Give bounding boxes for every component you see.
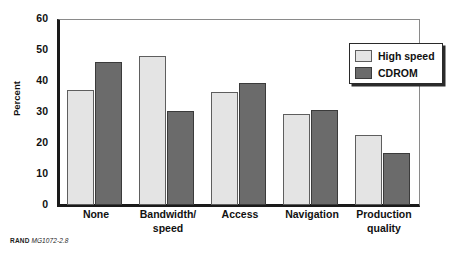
legend-item-cdrom: CDROM (355, 65, 418, 80)
y-axis-tick-label: 40 (36, 74, 48, 87)
bar-high-speed (283, 114, 310, 205)
bar-cdrom (239, 83, 266, 205)
source-note-code: MG1072-2.8 (31, 237, 68, 244)
bar-cdrom (167, 111, 194, 205)
y-axis-tick-label: 20 (36, 136, 48, 149)
x-axis-label-group: NoneBandwidth/speedAccessNavigationProdu… (60, 208, 420, 248)
bar-group (60, 19, 132, 205)
bar-group (132, 19, 204, 205)
bar-group (204, 19, 276, 205)
bar-cdrom (95, 62, 122, 205)
x-axis-label-line: speed (126, 222, 210, 236)
y-axis-tick: 50 (0, 50, 57, 51)
bar-high-speed (355, 135, 382, 205)
legend-item-high-speed: High speed (355, 48, 435, 63)
y-axis-tick-label: 10 (36, 167, 48, 180)
y-axis-tick: 40 (0, 81, 57, 82)
y-axis-title: Percent (11, 56, 22, 116)
bar-cdrom (311, 110, 338, 205)
y-axis-tick: 20 (0, 143, 57, 144)
y-axis-tick: 0 (0, 205, 57, 206)
bar-high-speed (139, 56, 166, 205)
bar-high-speed (211, 92, 238, 205)
y-axis-tick: 10 (0, 174, 57, 175)
source-note: RAND MG1072-2.8 (10, 236, 69, 245)
x-axis-label-line: Production (342, 208, 426, 222)
y-axis-tick-label: 60 (36, 12, 48, 25)
y-axis-tick: 60 (0, 19, 57, 20)
legend-swatch-icon-high-speed (355, 50, 372, 62)
figure-container: Percent 0102030405060 NoneBandwidth/spee… (0, 0, 461, 263)
bar-cdrom (383, 153, 410, 205)
bar-high-speed (67, 90, 94, 205)
legend-label-cdrom: CDROM (378, 67, 418, 79)
x-axis-label: Productionquality (342, 208, 426, 235)
y-axis-tick: 30 (0, 112, 57, 113)
chart-legend: High speed CDROM (349, 43, 443, 84)
y-axis-tick-label: 0 (42, 198, 48, 211)
y-axis-tick-label: 50 (36, 43, 48, 56)
x-axis-label-line: quality (342, 222, 426, 236)
source-note-brand: RAND (10, 237, 30, 244)
legend-swatch-icon-cdrom (355, 67, 372, 79)
legend-label-high-speed: High speed (378, 50, 435, 62)
bar-group (276, 19, 348, 205)
y-axis-tick-label: 30 (36, 105, 48, 118)
